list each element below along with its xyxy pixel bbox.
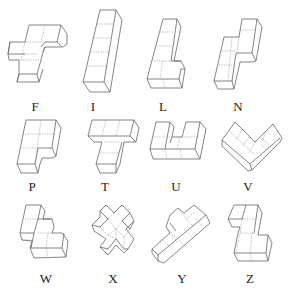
pentomino-t-drawing bbox=[86, 118, 140, 174]
pentomino-f-drawing bbox=[5, 22, 67, 82]
pentomino-x-shape bbox=[90, 203, 138, 258]
pentomino-n-drawing bbox=[212, 17, 264, 89]
pentomino-y-shape bbox=[150, 203, 216, 265]
pentomino-i-label: I bbox=[83, 100, 103, 114]
pentomino-i-shape bbox=[80, 8, 125, 94]
pentomino-w-shape bbox=[18, 203, 70, 261]
pentomino-v-label: V bbox=[238, 180, 258, 194]
pentomino-p-label: P bbox=[22, 180, 42, 194]
pentomino-l-label: L bbox=[153, 100, 173, 114]
pentomino-u-shape bbox=[148, 119, 208, 161]
pentomino-x-drawing bbox=[90, 203, 138, 258]
pentomino-z-label: Z bbox=[240, 272, 260, 286]
pentomino-l-drawing bbox=[145, 17, 185, 89]
pentomino-v-shape bbox=[220, 120, 282, 172]
pentomino-t-label: T bbox=[95, 180, 115, 194]
pentomino-n-shape bbox=[212, 17, 264, 89]
pentomino-u-label: U bbox=[166, 180, 186, 194]
pentomino-f-label: F bbox=[25, 100, 45, 114]
pentomino-u-drawing bbox=[148, 119, 208, 161]
pentomino-f-shape bbox=[5, 22, 67, 82]
pentomino-x-label: X bbox=[103, 272, 123, 286]
pentomino-w-label: W bbox=[36, 272, 56, 286]
pentomino-w-drawing bbox=[18, 203, 70, 261]
pentomino-i-drawing bbox=[80, 8, 125, 94]
pentomino-t-shape bbox=[86, 118, 140, 174]
pentomino-n-label: N bbox=[228, 100, 248, 114]
pentomino-p-drawing bbox=[16, 118, 64, 174]
pentomino-v-drawing bbox=[220, 120, 282, 172]
pentomino-z-drawing bbox=[226, 203, 274, 261]
pentomino-y-label: Y bbox=[172, 272, 192, 286]
pentomino-y-drawing bbox=[150, 203, 216, 265]
pentomino-p-shape bbox=[16, 118, 64, 174]
pentomino-z-shape bbox=[226, 203, 274, 261]
pentomino-l-shape bbox=[145, 17, 185, 89]
